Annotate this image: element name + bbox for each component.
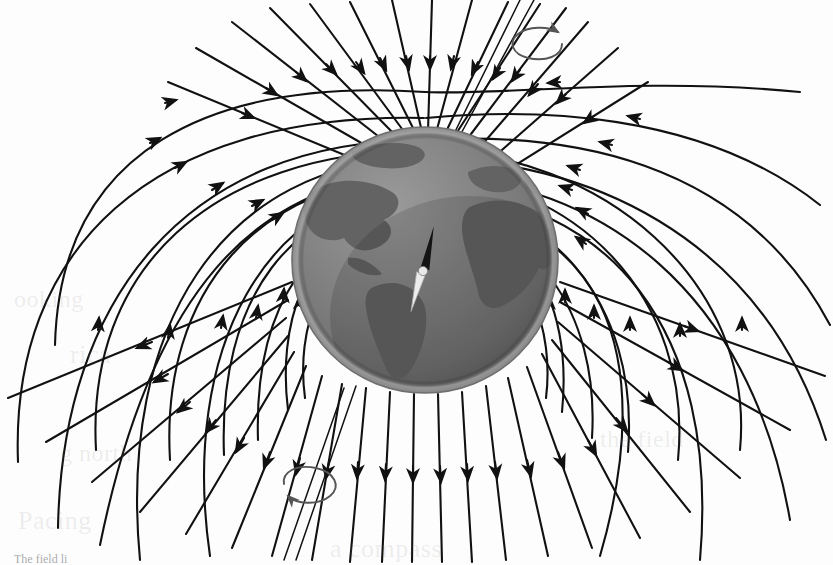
figure-root: Pacing rica ooking g north the field a c… bbox=[0, 0, 833, 565]
earth-magnetic-field-diagram bbox=[0, 0, 833, 565]
figure-caption: The field li bbox=[14, 552, 67, 565]
